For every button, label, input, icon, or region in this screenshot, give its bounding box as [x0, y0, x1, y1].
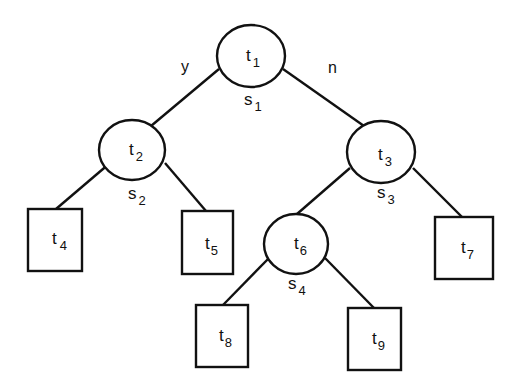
node-t2: t2 s2	[99, 120, 165, 208]
edge-t2-t5	[165, 163, 206, 211]
node-t2-label: t	[129, 140, 134, 159]
edge-label-yes: y	[181, 58, 189, 75]
split-s3: s3	[377, 183, 395, 207]
node-t6: t6 s4	[264, 214, 328, 298]
edge-label-no: n	[328, 59, 337, 76]
node-t3: t3 s3	[347, 121, 415, 207]
split-s2: s2	[128, 184, 146, 208]
node-t9-label: t	[372, 329, 377, 348]
decision-tree-diagram: y n t1 s1 t2 s2 t3 s3 t4 t5 t6 s4 t7	[0, 0, 524, 392]
node-t4-label: t	[52, 229, 57, 248]
edge-t1-t2	[151, 69, 219, 126]
node-t7-label: t	[461, 238, 466, 257]
node-t9: t9	[348, 308, 401, 370]
node-t5-label: t	[205, 234, 210, 253]
edge-t2-t4	[56, 163, 110, 209]
node-t8: t8	[196, 305, 248, 367]
node-t1: t1 s1	[217, 25, 285, 114]
diagram-svg: y n t1 s1 t2 s2 t3 s3 t4 t5 t6 s4 t7	[0, 0, 524, 392]
node-t3-label: t	[378, 145, 383, 164]
node-t6-label: t	[294, 234, 299, 253]
edge-t3-t7	[413, 168, 462, 217]
edge-t1-t3	[283, 69, 364, 126]
edge-t6-t9	[325, 258, 374, 308]
node-t5: t5	[182, 211, 233, 274]
node-t8-label: t	[219, 326, 224, 345]
split-s1: s1	[244, 90, 262, 114]
node-t4: t4	[28, 209, 82, 271]
split-s4: s4	[288, 274, 306, 298]
node-t7: t7	[435, 217, 493, 279]
edge-t3-t6	[297, 168, 350, 214]
node-t1-label: t	[246, 46, 251, 65]
